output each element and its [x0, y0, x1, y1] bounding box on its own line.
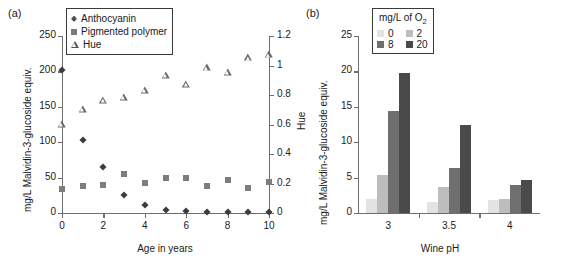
panel-a-y-tick: [58, 142, 62, 143]
bar-ph-3.5-o2-0: [427, 202, 438, 213]
panel-a-y2-tick-label: 0.4: [277, 147, 291, 158]
panel-a-x-tick: [103, 214, 104, 218]
swatch-o2-2: [406, 30, 413, 37]
panel-a-y2-tick: [270, 125, 274, 126]
panel-a-x-tick-label: 2: [91, 220, 115, 231]
legend-label-pigmented-polymer: Pigmented polymer: [81, 26, 167, 37]
panel-a-legend: Anthocyanin Pigmented polymer Hue: [66, 8, 173, 55]
data-point-hue: [265, 51, 273, 58]
bar-ph-3-o2-2: [377, 175, 388, 213]
panel-b-label: (b): [306, 7, 319, 19]
legend-item-hue: Hue: [71, 38, 167, 51]
panel-a-y2-tick: [270, 95, 274, 96]
triangle-inner: [204, 66, 208, 70]
data-point-pigmented-polymer: [80, 183, 86, 189]
legend-item-pigmented-polymer: Pigmented polymer: [71, 25, 167, 38]
panel-b-y-tick: [354, 107, 358, 108]
panel-b-y-tick-label: 0: [328, 206, 352, 217]
swatch-o2-0: [377, 30, 384, 37]
panel-b-y-axis-line: [358, 36, 359, 213]
panel-a-y2-tick-label: 0.2: [277, 177, 291, 188]
data-point-hue: [161, 71, 169, 78]
panel-b-y-tick-label: 20: [328, 64, 352, 75]
swatch-o2-20: [406, 41, 413, 48]
panel-a-y-tick: [58, 36, 62, 37]
legend-row-2: 8 20: [377, 39, 428, 50]
data-point-hue: [58, 120, 66, 127]
panel-a-y-tick: [58, 178, 62, 179]
panel-a-x-tick-label: 6: [174, 220, 198, 231]
panel-a-x-tick: [145, 214, 146, 218]
data-point-hue: [203, 64, 211, 71]
data-point-pigmented-polymer: [121, 171, 127, 177]
panel-b-x-tick: [419, 214, 420, 218]
data-point-pigmented-polymer: [245, 185, 251, 191]
panel-a-y2-tick-label: 1: [277, 59, 283, 70]
panel-b-x-tick-label: 3.5: [424, 220, 474, 231]
legend-title-subscript: 2: [423, 17, 427, 26]
panel-b-y-tick: [354, 36, 358, 37]
triangle-inner: [59, 122, 63, 126]
open-triangle-icon: [71, 41, 79, 48]
bar-ph-4-o2-8: [510, 185, 521, 213]
legend-title-text: mg/L of O: [379, 12, 423, 23]
panel-b-y-tick: [354, 213, 358, 214]
data-point-hue: [244, 54, 252, 61]
panel-b-y-tick: [354, 178, 358, 179]
data-point-pigmented-polymer: [59, 186, 65, 192]
panel-a-y2-tick-label: 0.6: [277, 118, 291, 129]
legend-label-o2-8: 8: [388, 39, 394, 50]
panel-a-y-tick-label: 50: [28, 171, 56, 182]
data-point-anthocyanin: [224, 209, 231, 216]
panel-a-y2-tick-label: 1.2: [277, 29, 291, 40]
panel-b-x-axis-line: [358, 213, 540, 214]
data-point-hue: [182, 80, 190, 87]
bar-ph-4-o2-0: [488, 200, 499, 213]
legend-item-o2-20: 20: [406, 39, 428, 50]
panel-a-y-tick-label: 250: [28, 29, 56, 40]
panel-b: (b) mg/L Malvidin-3-glucoside equiv. Win…: [300, 0, 564, 266]
panel-a-y2-tick-label: 0: [277, 206, 283, 217]
bar-ph-4-o2-2: [499, 199, 510, 213]
panel-a-x-tick-label: 10: [257, 220, 281, 231]
data-point-pigmented-polymer: [163, 175, 169, 181]
legend-item-o2-8: 8: [377, 39, 394, 50]
panel-a-y2-tick: [270, 66, 274, 67]
panel-b-y-tick: [354, 71, 358, 72]
panel-a-y-tick-label: 150: [28, 100, 56, 111]
data-point-hue: [223, 68, 231, 75]
bar-ph-3-o2-0: [366, 199, 377, 213]
data-point-pigmented-polymer: [266, 179, 272, 185]
panel-a-x-tick-label: 4: [133, 220, 157, 231]
filled-square-icon: [71, 29, 77, 35]
triangle-inner: [245, 56, 249, 60]
panel-a-plot-area: [62, 36, 269, 213]
panel-b-y-tick-label: 15: [328, 100, 352, 111]
filled-diamond-icon: [71, 12, 77, 18]
triangle-inner: [80, 108, 84, 112]
data-point-pigmented-polymer: [100, 182, 106, 188]
data-point-pigmented-polymer: [204, 183, 210, 189]
bar-ph-3-o2-8: [388, 111, 399, 213]
bar-ph-3.5-o2-8: [449, 168, 460, 213]
panel-a-x-tick: [186, 214, 187, 218]
data-point-anthocyanin: [265, 209, 272, 216]
triangle-inner: [266, 53, 270, 57]
panel-a-y-tick-label: 100: [28, 135, 56, 146]
panel-a-y2-tick-label: 0.8: [277, 88, 291, 99]
legend-title-o2: mg/L of O2: [379, 12, 428, 26]
triangle-inner: [121, 96, 125, 100]
panel-b-x-tick: [479, 214, 480, 218]
triangle-inner: [163, 74, 167, 78]
legend-row-1: 0 2: [377, 28, 428, 39]
legend-item-o2-2: 2: [406, 28, 423, 39]
legend-label-hue: Hue: [83, 39, 101, 50]
panel-a-x-axis-title: Age in years: [60, 243, 270, 254]
panel-a-y-tick: [58, 107, 62, 108]
bar-ph-3.5-o2-2: [438, 187, 449, 213]
panel-a-y2-tick: [270, 154, 274, 155]
panel-a: (a) mg/L Malvidin-3-glucoside equiv. Hue…: [0, 0, 300, 266]
panel-b-y-tick-label: 25: [328, 29, 352, 40]
data-point-pigmented-polymer: [183, 175, 189, 181]
bar-ph-4-o2-20: [521, 180, 532, 213]
